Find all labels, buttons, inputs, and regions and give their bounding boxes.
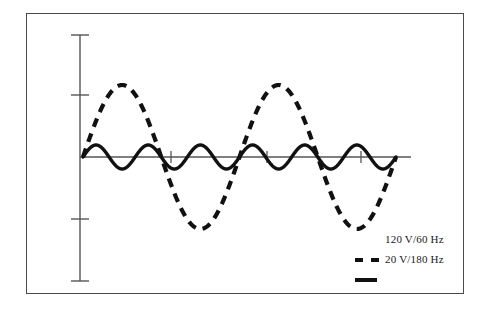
legend-swatch-dashed-icon (355, 258, 379, 262)
legend-label-20v: 20 V/180 Hz (385, 252, 444, 267)
legend: 120 V/60 Hz 20 V/180 Hz (355, 232, 465, 290)
legend-swatch-solid-icon (355, 278, 377, 282)
legend-label-120v: 120 V/60 Hz (385, 232, 444, 247)
legend-swatch-none (355, 238, 379, 242)
figure-container: 120 V/60 Hz 20 V/180 Hz (0, 0, 492, 315)
